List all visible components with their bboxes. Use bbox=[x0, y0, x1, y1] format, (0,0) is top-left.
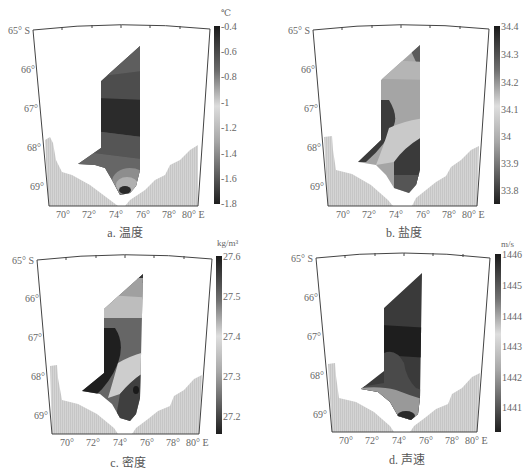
lon-label: 78° bbox=[157, 210, 181, 220]
lat-label: 67° bbox=[12, 333, 42, 343]
lat-label: 66° bbox=[9, 294, 39, 304]
lat-label: 67° bbox=[288, 104, 318, 114]
cb-tick: 27.6 bbox=[223, 252, 241, 262]
lon-label: 72° bbox=[360, 436, 384, 446]
cb-tick: 1445 bbox=[502, 281, 522, 291]
cb-tick: 27.5 bbox=[223, 292, 241, 302]
cb-tick: 34.2 bbox=[501, 78, 519, 88]
lat-label: 66° bbox=[288, 293, 318, 303]
lat-label: 67° bbox=[291, 332, 321, 342]
cb-tick: 1442 bbox=[502, 373, 522, 383]
colorbar-temperature bbox=[214, 26, 220, 204]
lon-label: 80° E bbox=[182, 210, 205, 220]
lat-label: 69° bbox=[14, 182, 44, 192]
cb-tick: 1444 bbox=[502, 312, 522, 322]
density-field bbox=[75, 268, 155, 428]
cb-tick: 33.9 bbox=[501, 159, 519, 169]
lat-label: 65° S bbox=[0, 26, 30, 36]
lon-label: 80° E bbox=[465, 436, 488, 446]
cb-tick: -1.6 bbox=[221, 174, 237, 184]
cb-tick: -0.4 bbox=[221, 22, 237, 32]
lon-label: 72° bbox=[77, 210, 101, 220]
colorbar-unit: m/s bbox=[501, 239, 514, 249]
lon-label: 78° bbox=[440, 436, 464, 446]
lat-label: 65° S bbox=[280, 26, 310, 36]
cb-tick: 34.1 bbox=[501, 105, 519, 115]
lon-label: 78° bbox=[437, 210, 461, 220]
panel-caption: c. 密度 bbox=[68, 453, 188, 471]
lon-label: 72° bbox=[357, 210, 381, 220]
colorbar-density bbox=[216, 256, 222, 434]
lon-label: 76° bbox=[131, 210, 155, 220]
cb-tick: 1446 bbox=[502, 250, 522, 260]
lon-label: 76° bbox=[414, 436, 438, 446]
lon-label: 70° bbox=[334, 436, 358, 446]
colorbar-salinity bbox=[494, 26, 500, 204]
cb-tick: 33.8 bbox=[501, 186, 519, 196]
lon-label: 74° bbox=[104, 210, 128, 220]
lat-label: 68° bbox=[15, 372, 45, 382]
lon-label: 74° bbox=[108, 438, 132, 448]
cb-tick: 27.3 bbox=[223, 372, 241, 382]
lon-label: 72° bbox=[81, 438, 105, 448]
colorbar-unit: ℃ bbox=[221, 8, 231, 18]
lat-label: 68° bbox=[11, 143, 41, 153]
land-east bbox=[412, 146, 479, 206]
lon-label: 74° bbox=[387, 436, 411, 446]
lon-label: 80° E bbox=[462, 210, 485, 220]
cb-tick: -1.8 bbox=[221, 199, 237, 209]
sound-speed-field bbox=[351, 268, 431, 428]
colorbar-sound-speed bbox=[495, 254, 501, 432]
lat-label: 65° S bbox=[283, 254, 313, 264]
lon-label: 80° E bbox=[186, 438, 209, 448]
cb-tick: -1 bbox=[221, 98, 229, 108]
cb-tick: -1.4 bbox=[221, 149, 237, 159]
cb-tick: 27.2 bbox=[223, 412, 241, 422]
lat-label: 67° bbox=[8, 104, 38, 114]
lat-label: 69° bbox=[18, 411, 48, 421]
lon-label: 74° bbox=[384, 210, 408, 220]
panel-salinity: 34.4 34.3 34.2 34.1 34 33.9 33.8 65° S 6… bbox=[266, 0, 532, 238]
colorbar-unit: kg/m³ bbox=[217, 238, 238, 248]
cb-tick: -0.6 bbox=[221, 47, 237, 57]
lat-label: 68° bbox=[294, 371, 324, 381]
cb-tick: 1441 bbox=[502, 403, 522, 413]
cb-tick: 34.3 bbox=[501, 50, 519, 60]
panel-density: kg/m³ 27.6 27.5 27.4 27.3 27.2 65° S 66°… bbox=[0, 238, 266, 476]
lat-label: 66° bbox=[285, 65, 315, 75]
panel-caption: d. 声速 bbox=[347, 450, 467, 468]
temperature-field bbox=[70, 40, 150, 200]
salinity-field bbox=[346, 40, 426, 200]
lon-label: 78° bbox=[161, 438, 185, 448]
lon-label: 76° bbox=[135, 438, 159, 448]
panel-sound-speed: m/s 1446 1445 1444 1443 1442 1441 65° S … bbox=[266, 238, 532, 476]
lat-label: 65° S bbox=[4, 256, 34, 266]
cb-tick: -1.2 bbox=[221, 123, 237, 133]
panel-temperature: ℃ -0.4 -0.6 -0.8 -1 -1.2 -1.4 -1.6 -1.8 … bbox=[0, 0, 266, 238]
land-east bbox=[410, 373, 480, 432]
lat-label: 69° bbox=[297, 410, 327, 420]
land-east bbox=[132, 375, 202, 434]
lat-label: 68° bbox=[291, 143, 321, 153]
cb-tick: 1443 bbox=[502, 342, 522, 352]
lat-label: 69° bbox=[294, 182, 324, 192]
lat-label: 66° bbox=[5, 65, 35, 75]
lon-label: 70° bbox=[331, 210, 355, 220]
lon-label: 76° bbox=[411, 210, 435, 220]
lon-label: 70° bbox=[51, 210, 75, 220]
cb-tick: -0.8 bbox=[221, 72, 237, 82]
lon-label: 70° bbox=[55, 438, 79, 448]
map-density bbox=[0, 238, 266, 476]
cb-tick: 34.4 bbox=[501, 22, 519, 32]
cb-tick: 27.4 bbox=[223, 332, 241, 342]
cb-tick: 34 bbox=[501, 132, 511, 142]
